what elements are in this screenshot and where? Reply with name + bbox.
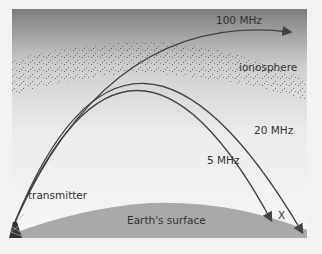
- label-ionosphere: ionosphere: [239, 61, 297, 73]
- label-earth-surface: Earth's surface: [127, 214, 206, 226]
- label-5mhz: 5 MHz: [207, 154, 240, 166]
- label-transmitter: transmitter: [28, 189, 88, 201]
- label-skip-distance: X: [278, 209, 285, 221]
- radio-propagation-diagram: 100 MHz ionosphere 20 MHz 5 MHz transmit…: [0, 0, 322, 254]
- label-20mhz: 20 MHz: [254, 124, 294, 136]
- label-100mhz: 100 MHz: [216, 14, 262, 26]
